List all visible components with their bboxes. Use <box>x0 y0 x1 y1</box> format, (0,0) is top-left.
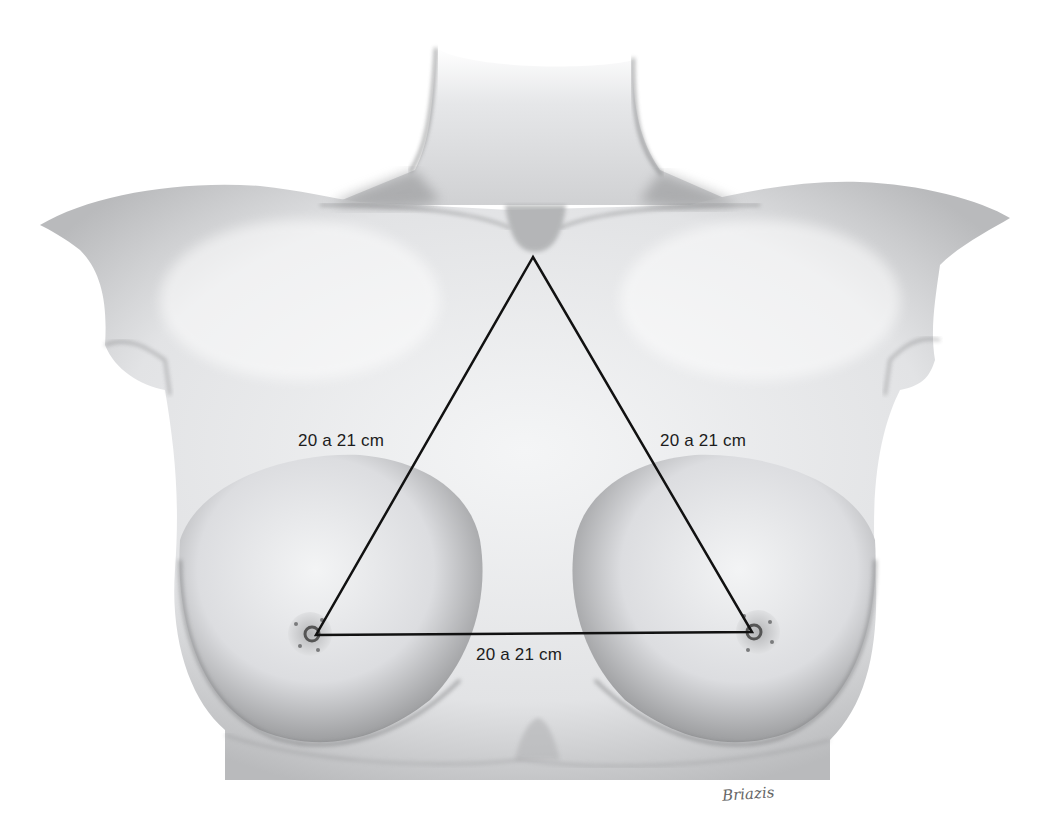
base-measurement-label: 20 a 21 cm <box>476 645 562 665</box>
left-side-measurement-label: 20 a 21 cm <box>298 431 384 451</box>
artist-signature: Briazis <box>721 783 774 805</box>
anatomy-illustration: 20 a 21 cm 20 a 21 cm 20 a 21 cm Briazis <box>0 0 1054 838</box>
right-side-measurement-label: 20 a 21 cm <box>660 431 746 451</box>
torso-drawing <box>0 0 1054 838</box>
